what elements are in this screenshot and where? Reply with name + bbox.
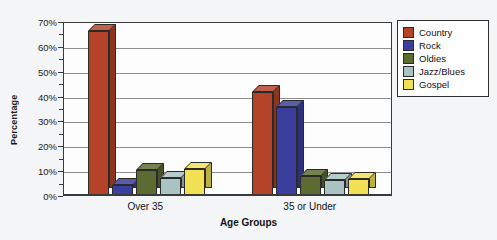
bar-side <box>109 24 116 188</box>
legend-item[interactable]: Gospel <box>403 78 484 91</box>
bar-face <box>184 169 205 195</box>
legend-swatch-icon <box>403 53 414 64</box>
y-axis-tick-label: 0% <box>17 191 57 202</box>
legend-item[interactable]: Oldies <box>403 52 484 65</box>
y-axis-tick-label: 30% <box>17 116 57 127</box>
bar <box>160 178 181 195</box>
legend-item-label: Oldies <box>419 53 446 64</box>
bar-face <box>160 178 181 195</box>
y-axis-tick-label: 60% <box>17 41 57 52</box>
axis-baseline <box>64 194 391 195</box>
y-axis-tick-label: 70% <box>17 17 57 28</box>
bar-face <box>276 107 297 195</box>
legend-swatch-icon <box>403 66 414 77</box>
plot-area <box>63 22 392 196</box>
y-axis-major-tick <box>58 196 63 197</box>
legend-item[interactable]: Jazz/Blues <box>403 65 484 78</box>
y-axis-tick-label: 10% <box>17 166 57 177</box>
x-axis-tick-label: Over 35 <box>127 201 163 212</box>
legend-item-label: Rock <box>419 40 441 51</box>
bar <box>300 176 321 195</box>
bar-face <box>88 31 109 195</box>
y-axis-tick-label: 40% <box>17 91 57 102</box>
legend-item-label: Jazz/Blues <box>419 66 465 77</box>
x-axis-title: Age Groups <box>0 217 497 228</box>
legend-swatch-icon <box>403 40 414 51</box>
bar <box>136 170 157 195</box>
bar <box>348 179 369 195</box>
bar <box>276 107 297 195</box>
legend-swatch-icon <box>403 79 414 90</box>
bar-chart: Percentage 0%10%20%30%40%50%60%70% Over … <box>0 0 497 240</box>
legend-item-label: Gospel <box>419 79 449 90</box>
bar <box>88 31 109 195</box>
legend-swatch-icon <box>403 27 414 38</box>
bar-face <box>252 92 273 195</box>
legend-item[interactable]: Rock <box>403 39 484 52</box>
bar <box>252 92 273 195</box>
x-axis-tick-label: 35 or Under <box>283 201 336 212</box>
y-axis-tick-label: 50% <box>17 66 57 77</box>
legend-item[interactable]: Country <box>403 26 484 39</box>
y-axis-tick-label: 20% <box>17 141 57 152</box>
legend: CountryRockOldiesJazz/BluesGospel <box>397 20 489 97</box>
bar-face <box>324 180 345 195</box>
legend-item-label: Country <box>419 27 452 38</box>
bar-face <box>348 179 369 195</box>
bar <box>324 180 345 195</box>
bar-face <box>136 170 157 195</box>
bar-groups <box>64 23 391 195</box>
bar-face <box>300 176 321 195</box>
bar <box>184 169 205 195</box>
